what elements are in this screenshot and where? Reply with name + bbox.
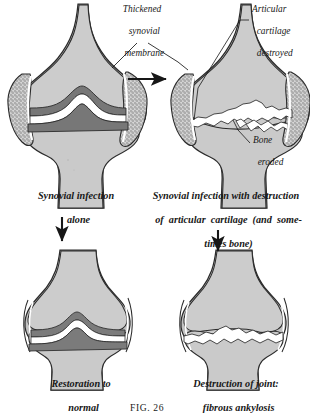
callout-line-1: Thickened: [123, 4, 162, 14]
caption-line-1: Synovial infection with destruction: [153, 190, 299, 201]
caption-line-2: normal: [68, 402, 99, 413]
caption-line-3: times bone): [204, 238, 252, 249]
callout-bone-eroded: Bone eroded: [253, 135, 309, 168]
callout-line-3: membrane: [125, 48, 165, 58]
caption-line-1: Destruction of joint:: [193, 378, 278, 389]
caption-line-2: fibrous ankylosis: [203, 402, 275, 413]
callout-line-2: cartilage: [257, 26, 291, 36]
panel-bottom-left: [24, 250, 133, 390]
caption-panel-top-left: Synovial infection alone: [6, 190, 146, 226]
caption-panel-bottom-right: Destruction of joint: fibrous ankylosis: [166, 378, 306, 414]
callout-thickened-synovial-membrane: Thickened synovial membrane: [96, 4, 188, 59]
callout-line-3: destroyed: [257, 48, 293, 58]
callout-line-1: Bone: [253, 135, 272, 145]
callout-articular-cartilage-destroyed: Articular cartilage destroyed: [252, 4, 310, 59]
callout-line-1: Articular: [252, 4, 286, 14]
caption-line-1: Restoration to: [51, 378, 110, 389]
caption-line-2: of articular cartilage (and some-: [155, 214, 302, 225]
callout-line-2: synovial: [129, 26, 160, 36]
caption-panel-top-right: Synovial infection with destruction of a…: [142, 190, 310, 250]
caption-line-2: alone: [67, 214, 90, 225]
caption-line-1: Synovial infection: [38, 190, 114, 201]
figure-number-label: FIG. 26: [130, 402, 164, 413]
panel-bottom-right: [180, 250, 289, 390]
caption-panel-bottom-left: Restoration to normal: [18, 378, 144, 414]
callout-line-2: eroded: [258, 157, 284, 167]
